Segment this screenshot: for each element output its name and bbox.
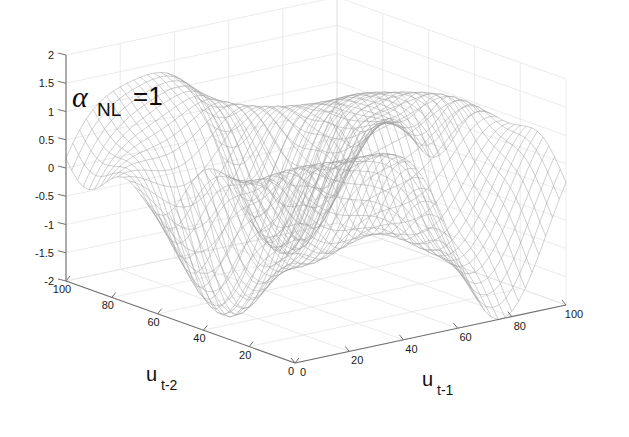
mesh-plot-figure: 21.510.50-0.5-1-1.5-20204060801000204060… — [0, 0, 629, 437]
tick-label: -0.5 — [35, 190, 54, 202]
tick-label: 40 — [193, 332, 205, 344]
tick-label: 40 — [405, 343, 417, 355]
y-axis-title: u t-2 — [146, 363, 178, 393]
tick-label: 1.5 — [39, 77, 54, 89]
x-axis-title: u t-1 — [422, 368, 454, 398]
tick-label: 20 — [351, 354, 363, 366]
tick-label: 80 — [102, 299, 114, 311]
alpha-equals-value: =1 — [133, 81, 163, 111]
tick-label: 80 — [514, 320, 526, 332]
tick-label: -1.5 — [35, 247, 54, 259]
tick-label: -1 — [44, 219, 54, 231]
tick-label: 0.5 — [39, 134, 54, 146]
tick-label: 20 — [239, 349, 251, 361]
y-axis-title-sub: t-2 — [161, 377, 178, 393]
tick-label: 2 — [48, 49, 54, 61]
alpha-symbol: α — [72, 80, 89, 113]
tick-label: 60 — [147, 316, 159, 328]
x-axis-title-sub: t-1 — [437, 382, 454, 398]
tick-label: 0 — [48, 162, 54, 174]
tick-label: 100 — [565, 308, 583, 320]
tick-label: 0 — [300, 366, 306, 378]
alpha-subscript-nl: NL — [97, 99, 121, 120]
surface-plot-svg: 21.510.50-0.5-1-1.5-20204060801000204060… — [0, 0, 629, 437]
tick-label: 0 — [288, 365, 294, 377]
tick-label: 60 — [459, 331, 471, 343]
x-axis-title-main: u — [422, 368, 433, 390]
tick-label: 100 — [53, 283, 71, 295]
y-axis-title-main: u — [146, 363, 157, 385]
tick-label: 1 — [48, 106, 54, 118]
